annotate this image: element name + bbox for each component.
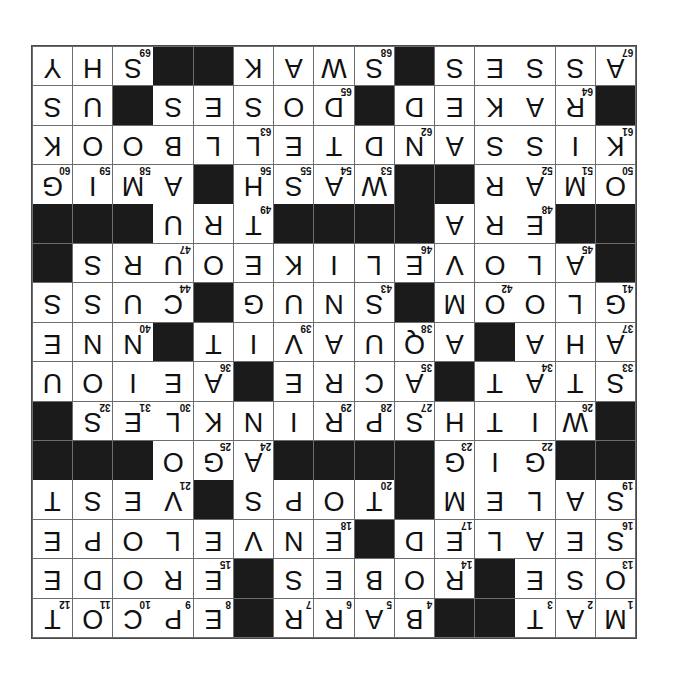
crossword-letter-cell[interactable]: L: [556, 283, 595, 322]
crossword-letter-cell[interactable]: M51: [556, 165, 595, 204]
crossword-letter-cell[interactable]: N: [73, 323, 112, 362]
crossword-letter-cell[interactable]: E: [314, 559, 353, 598]
crossword-letter-cell[interactable]: T: [475, 402, 514, 441]
crossword-letter-cell[interactable]: O: [314, 480, 353, 519]
crossword-letter-cell[interactable]: L: [515, 244, 554, 283]
crossword-letter-cell[interactable]: G25: [194, 441, 233, 480]
crossword-letter-cell[interactable]: O: [73, 126, 112, 165]
crossword-letter-cell[interactable]: A35: [395, 362, 434, 401]
crossword-letter-cell[interactable]: B: [153, 126, 192, 165]
crossword-letter-cell[interactable]: A2: [556, 599, 595, 638]
crossword-letter-cell[interactable]: V21: [153, 480, 192, 519]
crossword-letter-cell[interactable]: S55: [274, 165, 313, 204]
crossword-letter-cell[interactable]: I: [556, 126, 595, 165]
crossword-letter-cell[interactable]: I: [475, 441, 514, 480]
crossword-letter-cell[interactable]: P: [274, 480, 313, 519]
crossword-letter-cell[interactable]: S43: [355, 283, 394, 322]
crossword-letter-cell[interactable]: Q38: [395, 323, 434, 362]
crossword-letter-cell[interactable]: S: [435, 47, 474, 86]
crossword-letter-cell[interactable]: T: [194, 323, 233, 362]
crossword-letter-cell[interactable]: R: [153, 559, 192, 598]
crossword-letter-cell[interactable]: K: [234, 47, 273, 86]
crossword-letter-cell[interactable]: S: [234, 86, 273, 125]
crossword-letter-cell[interactable]: U: [274, 283, 313, 322]
crossword-letter-cell[interactable]: A36: [194, 362, 233, 401]
crossword-letter-cell[interactable]: T3: [515, 599, 554, 638]
crossword-letter-cell[interactable]: H: [73, 47, 112, 86]
crossword-letter-cell[interactable]: H56: [234, 165, 273, 204]
crossword-letter-cell[interactable]: S: [475, 126, 514, 165]
crossword-letter-cell[interactable]: A67: [596, 47, 635, 86]
crossword-letter-cell[interactable]: R64: [556, 86, 595, 125]
crossword-letter-cell[interactable]: E: [33, 559, 72, 598]
crossword-letter-cell[interactable]: U: [73, 86, 112, 125]
crossword-letter-cell[interactable]: U: [153, 204, 192, 243]
crossword-letter-cell[interactable]: I: [234, 323, 273, 362]
crossword-letter-cell[interactable]: R29: [314, 402, 353, 441]
crossword-letter-cell[interactable]: S: [73, 283, 112, 322]
crossword-letter-cell[interactable]: E: [194, 520, 233, 559]
crossword-letter-cell[interactable]: R14: [435, 559, 474, 598]
crossword-letter-cell[interactable]: I59: [73, 165, 112, 204]
crossword-letter-cell[interactable]: S33: [596, 362, 635, 401]
crossword-letter-cell[interactable]: K: [194, 402, 233, 441]
crossword-letter-cell[interactable]: N: [314, 283, 353, 322]
crossword-letter-cell[interactable]: E18: [314, 520, 353, 559]
crossword-letter-cell[interactable]: W: [314, 47, 353, 86]
crossword-letter-cell[interactable]: D: [395, 86, 434, 125]
crossword-letter-cell[interactable]: N: [234, 402, 273, 441]
crossword-letter-cell[interactable]: E: [33, 323, 72, 362]
crossword-letter-cell[interactable]: Y: [33, 47, 72, 86]
crossword-letter-cell[interactable]: E48: [515, 204, 554, 243]
crossword-letter-cell[interactable]: S27: [395, 402, 434, 441]
crossword-letter-cell[interactable]: T20: [355, 480, 394, 519]
crossword-letter-cell[interactable]: N62: [395, 126, 434, 165]
crossword-letter-cell[interactable]: D: [395, 520, 434, 559]
crossword-letter-cell[interactable]: S68: [355, 47, 394, 86]
crossword-letter-cell[interactable]: C44: [153, 283, 192, 322]
crossword-letter-cell[interactable]: S19: [596, 480, 635, 519]
crossword-letter-cell[interactable]: A: [274, 47, 313, 86]
crossword-letter-cell[interactable]: E: [435, 86, 474, 125]
crossword-letter-cell[interactable]: A: [435, 323, 474, 362]
crossword-letter-cell[interactable]: E17: [435, 520, 474, 559]
crossword-letter-cell[interactable]: S: [556, 559, 595, 598]
crossword-letter-cell[interactable]: T: [33, 480, 72, 519]
crossword-letter-cell[interactable]: O: [113, 559, 152, 598]
crossword-letter-cell[interactable]: K61: [596, 126, 635, 165]
crossword-letter-cell[interactable]: A52: [515, 165, 554, 204]
crossword-letter-cell[interactable]: E: [153, 362, 192, 401]
crossword-letter-cell[interactable]: I: [314, 244, 353, 283]
crossword-letter-cell[interactable]: L: [475, 520, 514, 559]
crossword-grid[interactable]: M1A2T3B4A5R6R7E8P9C10O11T12O13SER14OBESE…: [31, 45, 637, 639]
crossword-letter-cell[interactable]: B4: [395, 599, 434, 638]
crossword-letter-cell[interactable]: D65: [314, 86, 353, 125]
crossword-letter-cell[interactable]: L: [194, 126, 233, 165]
crossword-letter-cell[interactable]: O: [194, 244, 233, 283]
crossword-letter-cell[interactable]: E15: [194, 559, 233, 598]
crossword-letter-cell[interactable]: S: [274, 559, 313, 598]
crossword-letter-cell[interactable]: G22: [515, 441, 554, 480]
crossword-letter-cell[interactable]: K: [274, 244, 313, 283]
crossword-letter-cell[interactable]: S32: [73, 402, 112, 441]
crossword-letter-cell[interactable]: S16: [596, 520, 635, 559]
crossword-letter-cell[interactable]: E: [274, 362, 313, 401]
crossword-letter-cell[interactable]: T: [475, 362, 514, 401]
crossword-letter-cell[interactable]: T: [314, 126, 353, 165]
crossword-letter-cell[interactable]: W53: [355, 165, 394, 204]
crossword-letter-cell[interactable]: A: [435, 126, 474, 165]
crossword-letter-cell[interactable]: H: [435, 402, 474, 441]
crossword-letter-cell[interactable]: T: [556, 362, 595, 401]
crossword-letter-cell[interactable]: K: [475, 86, 514, 125]
crossword-letter-cell[interactable]: A37: [596, 323, 635, 362]
crossword-letter-cell[interactable]: R7: [274, 599, 313, 638]
crossword-letter-cell[interactable]: A5: [355, 599, 394, 638]
crossword-letter-cell[interactable]: S: [515, 47, 554, 86]
crossword-letter-cell[interactable]: A: [515, 323, 554, 362]
crossword-letter-cell[interactable]: O: [113, 520, 152, 559]
crossword-letter-cell[interactable]: R: [113, 244, 152, 283]
crossword-letter-cell[interactable]: G41: [596, 283, 635, 322]
crossword-letter-cell[interactable]: O13: [596, 559, 635, 598]
crossword-letter-cell[interactable]: A: [556, 480, 595, 519]
crossword-letter-cell[interactable]: M: [435, 283, 474, 322]
